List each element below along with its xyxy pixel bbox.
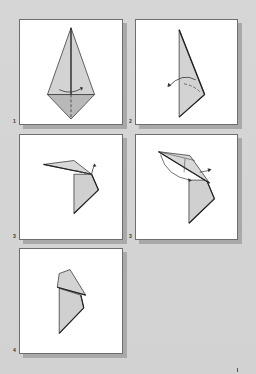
finished-head-diagram — [20, 249, 122, 353]
instruction-page: 1 2 3 — [0, 0, 256, 374]
step-panel-1: 1 — [19, 19, 123, 125]
head-fold-diagram — [20, 135, 122, 239]
kite-diagram — [20, 20, 122, 124]
step-number: 1 — [13, 119, 16, 124]
step-panel-4: 3 — [135, 134, 238, 240]
step-number: 3 — [13, 234, 16, 239]
step-number: 4 — [13, 348, 16, 353]
step-panel-5: 4 — [19, 248, 123, 354]
reverse-fold-diagram — [136, 135, 237, 239]
half-fold-diagram — [136, 20, 237, 124]
step-panel-3: 3 — [19, 134, 123, 240]
step-panel-2: 2 — [135, 19, 238, 125]
page-corner-mark — [237, 368, 238, 372]
step-number: 2 — [129, 119, 132, 124]
step-number: 3 — [129, 234, 132, 239]
